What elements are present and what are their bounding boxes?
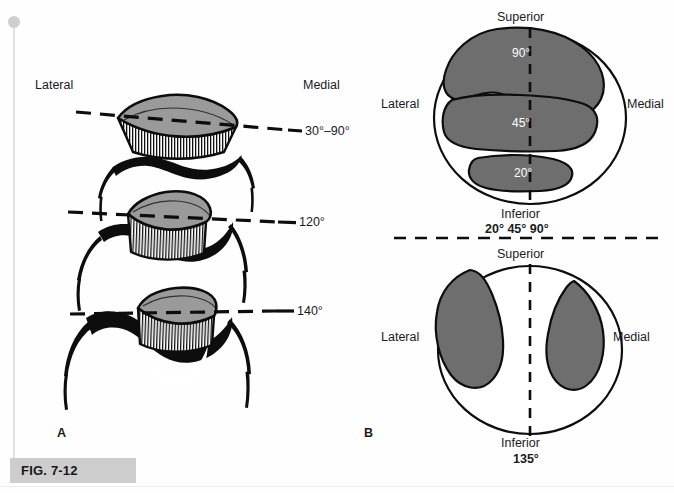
panel-b-bottom-superior-label: Superior <box>497 247 544 261</box>
panel-a-row-3-art <box>64 288 295 410</box>
panel-a-angle-label-1: 30°–90° <box>305 124 350 138</box>
panel-b-top-inferior-label: Inferior <box>501 207 540 221</box>
panel-a-medial-label: Medial <box>303 78 340 92</box>
panel-b-bottom-lateral-label: Lateral <box>381 330 419 344</box>
page-bottom-divider <box>0 486 674 487</box>
panel-a-letter: A <box>57 426 66 440</box>
panel-b-top-lateral-label: Lateral <box>381 97 419 111</box>
panel-b-top-summary-label: 20° 45° 90° <box>485 222 549 236</box>
panel-a-angle-label-2: 120° <box>299 215 325 229</box>
figure-artwork <box>0 0 674 493</box>
panel-b-bottom-summary-label: 135° <box>513 452 539 466</box>
figure-page: Lateral Medial 30°–90° 120° 140° A Super… <box>0 0 674 493</box>
panel-b-top-superior-label: Superior <box>497 10 544 24</box>
panel-b-bottom-inferior-label: Inferior <box>501 436 540 450</box>
panel-b-band-label-90: 90° <box>512 46 530 60</box>
figure-caption-label: FIG. 7-12 <box>21 463 78 478</box>
panel-b-bottom-art <box>436 264 622 440</box>
panel-b-band-label-45: 45° <box>512 116 530 130</box>
panel-b-top-medial-label: Medial <box>627 97 664 111</box>
panel-b-band-label-20: 20° <box>514 166 532 180</box>
panel-b-bottom-medial-label: Medial <box>613 330 650 344</box>
panel-b-letter: B <box>364 426 373 440</box>
panel-a-angle-label-3: 140° <box>297 304 323 318</box>
panel-a-lateral-label: Lateral <box>35 78 73 92</box>
